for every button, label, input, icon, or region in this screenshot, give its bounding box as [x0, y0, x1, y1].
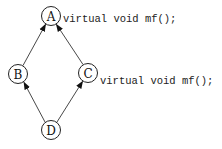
edge-d-to-b [24, 83, 45, 123]
annotation-c-method: virtual void mf(); [100, 75, 213, 87]
edge-b-to-a [23, 25, 46, 66]
node-c-label: C [83, 67, 92, 81]
node-d-label: D [46, 124, 56, 138]
node-d: D [42, 121, 61, 140]
node-b: B [9, 65, 28, 84]
inheritance-diagram: A B C D virtual void mf(); virtual void … [0, 0, 222, 149]
edge-d-to-c [57, 82, 83, 123]
node-c: C [79, 64, 98, 83]
edge-c-to-a [57, 25, 84, 65]
annotation-a-method: virtual void mf(); [63, 13, 176, 25]
node-a: A [42, 7, 61, 26]
node-b-label: B [14, 68, 23, 82]
node-a-label: A [46, 10, 56, 24]
